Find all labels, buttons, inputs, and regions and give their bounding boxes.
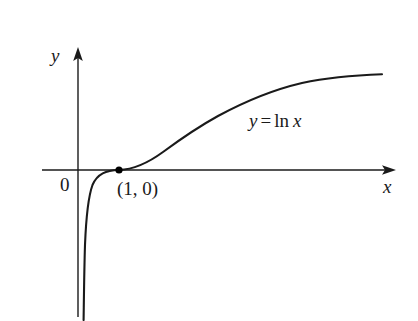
ln-graph-figure: y x 0 (1, 0) y=lnx <box>0 0 418 321</box>
curve-equation-argument: x <box>289 110 301 131</box>
curve-equation-function: ln <box>274 110 289 131</box>
y-axis-label: y <box>51 46 59 65</box>
point-marker-1-0 <box>115 166 122 173</box>
point-label: (1, 0) <box>117 179 158 198</box>
x-axis-label: x <box>383 177 391 196</box>
curve-equation-label: y=lnx <box>249 111 301 130</box>
origin-label: 0 <box>60 175 70 194</box>
curve-equation-operator: = <box>257 110 274 131</box>
plot-canvas <box>0 0 418 321</box>
